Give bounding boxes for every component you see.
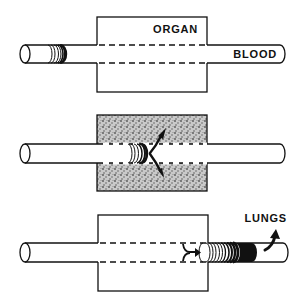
- diagram-canvas: ORGAN BLOOD: [0, 0, 301, 306]
- blood-label: BLOOD: [233, 48, 277, 60]
- panel-3: LUNGS: [20, 212, 288, 291]
- arrow-up-icon: [270, 229, 280, 239]
- lungs-label: LUNGS: [245, 212, 288, 224]
- organ-label: ORGAN: [153, 23, 198, 35]
- panel-1: ORGAN BLOOD: [20, 17, 285, 92]
- blood-vessel: [20, 144, 285, 163]
- panel-2: [20, 115, 285, 191]
